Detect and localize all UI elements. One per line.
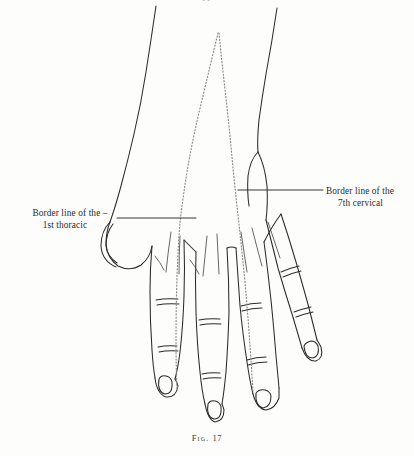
middle-nail	[208, 401, 222, 419]
wrist-tendon-fork	[248, 152, 258, 206]
index-finger-right	[175, 240, 185, 379]
annotation-right-line2: 7th cervical	[338, 197, 412, 209]
index-crease-pip-a	[158, 346, 177, 347]
forearm-left-edge	[110, 6, 156, 222]
tendon-index-b	[179, 236, 180, 274]
annotation-left-line1: Border line of the –	[32, 208, 107, 218]
annotation-label-left: Border line of the – 1st thoracic	[14, 207, 126, 232]
ring-crease-dip-a	[241, 303, 261, 306]
figure-plate: ••	[0, 0, 414, 456]
annotation-label-right: Border line of the 7th cervical	[326, 185, 412, 210]
figure-caption: Fig. 17	[0, 433, 414, 443]
middle-crease-pip-b	[203, 378, 221, 379]
figure-caption-prefix: Fig.	[192, 433, 209, 443]
index-crease-dip-a	[156, 299, 178, 300]
annotation-right-line1: Border line of the	[326, 186, 394, 196]
ring-crease-pip-a	[247, 357, 266, 360]
middle-crease-dip-b	[200, 324, 221, 325]
middle-crease-dip-a	[199, 319, 220, 320]
ulnar-border	[258, 152, 267, 220]
forearm-right-edge	[258, 8, 277, 152]
figure-caption-number: 17	[212, 433, 222, 443]
knuckle-shadow-mid	[190, 260, 199, 274]
ring-finger-left	[236, 248, 253, 394]
ring-crease-dip-b	[242, 308, 262, 311]
ring-nail	[256, 390, 271, 408]
web-index-middle	[184, 240, 196, 252]
little-crease-dip-a	[281, 266, 299, 272]
tendon-middle	[203, 236, 207, 276]
middle-finger-left	[196, 252, 206, 404]
index-nail	[159, 376, 173, 394]
tendon-ring-b	[252, 228, 262, 266]
tendon-middle-b	[217, 234, 219, 274]
little-finger-right	[281, 214, 317, 340]
web-middle-ring	[227, 247, 236, 248]
middle-crease-pip-a	[202, 373, 220, 374]
little-crease-dip-b	[283, 271, 301, 277]
index-finger-left	[150, 246, 155, 378]
index-crease-dip-b	[157, 304, 179, 305]
little-finger-left	[266, 220, 302, 348]
index-crease-pip-b	[159, 351, 178, 352]
tendon-index	[166, 232, 171, 272]
annotation-left-line2: 1st thoracic	[4, 219, 126, 231]
middle-finger-right	[222, 248, 229, 404]
little-crease-pip-a	[294, 307, 311, 312]
knuckle-shadow-index	[155, 256, 164, 270]
dermatome-boundary-ulnar	[219, 33, 253, 392]
